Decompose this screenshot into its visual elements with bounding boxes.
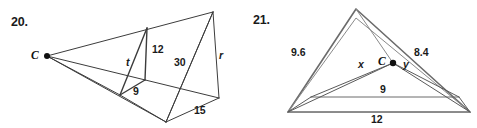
figure-20: 20. bbox=[0, 0, 240, 128]
fig21-label-y: y bbox=[403, 59, 409, 70]
fig20-label-30: 30 bbox=[174, 57, 186, 68]
fig21-line-y bbox=[393, 63, 470, 112]
fig21-label-9: 9 bbox=[380, 84, 386, 95]
fig20-label-c: C bbox=[31, 50, 39, 62]
fig20-line-15 bbox=[166, 98, 219, 122]
fig21-label-x: x bbox=[358, 59, 364, 70]
fig21-label-9-6: 9.6 bbox=[291, 47, 306, 58]
fig21-label-c: C bbox=[378, 56, 386, 68]
fig20-line-c-to-inner bbox=[47, 56, 120, 95]
fig21-label-8-4: 8.4 bbox=[414, 47, 429, 58]
fig21-line-apex bbox=[356, 9, 393, 63]
fig20-line-inner-to-bottom bbox=[120, 95, 166, 122]
fig20-label-9: 9 bbox=[133, 86, 139, 97]
fig20-label-15: 15 bbox=[194, 105, 206, 116]
fig20-label-r: r bbox=[219, 50, 223, 61]
fig21-label-12: 12 bbox=[371, 114, 383, 125]
fig21-line-left-corner bbox=[288, 97, 311, 112]
fig20-label-t: t bbox=[126, 57, 130, 68]
fig20-line-12 bbox=[145, 28, 147, 80]
fig20-label-12: 12 bbox=[152, 44, 164, 55]
figure-21-drawing bbox=[237, 0, 477, 128]
figure-sheet: 20. bbox=[0, 0, 477, 128]
fig20-vertex-c-dot bbox=[44, 53, 50, 59]
figure-21: 21. 9.6 8.4 x C y bbox=[237, 0, 477, 128]
fig20-line-c-to-top bbox=[47, 12, 213, 56]
fig21-vertex-c-dot bbox=[390, 60, 396, 66]
